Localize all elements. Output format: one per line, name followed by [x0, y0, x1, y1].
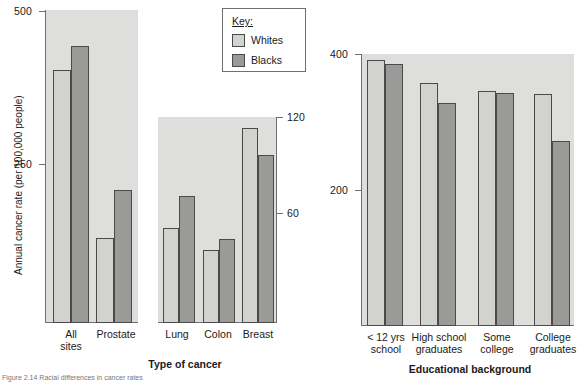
- y-axis-middle: [276, 117, 277, 323]
- y-tick-250-left: [39, 164, 45, 165]
- bar-blacks-high-school-graduates: [438, 103, 456, 326]
- category-label-lung: Lung: [155, 328, 199, 340]
- category-label-all-sites: All sites: [46, 328, 96, 352]
- bar-whites-college-graduates: [534, 94, 552, 326]
- bar-blacks-prostate: [114, 190, 132, 323]
- y-tick-label-400-right: 400: [330, 48, 348, 60]
- category-label-breast: Breast: [234, 328, 282, 340]
- bar-whites-high-school-graduates: [420, 83, 438, 326]
- figure-caption: Figure 2.14 Racial differences in cancer…: [2, 374, 242, 384]
- y-tick-200-right: [355, 190, 361, 191]
- category-label-college-graduates: College graduates: [522, 331, 582, 355]
- y-tick-label-200-right: 200: [330, 184, 348, 196]
- bar-blacks-breast: [258, 155, 274, 323]
- y-tick-label-60-middle: 60: [287, 207, 299, 219]
- legend-label-whites: Whites: [251, 34, 283, 47]
- y-axis-title-left: Annual cancer rate (per 100,000 people): [13, 95, 24, 275]
- whites-swatch-icon: [232, 34, 245, 47]
- legend-label-blacks: Blacks: [251, 54, 282, 67]
- bar-whites-breast: [242, 128, 258, 323]
- y-axis-left: [45, 10, 46, 323]
- bar-whites-some-college: [478, 91, 496, 326]
- y-tick-400-right: [355, 54, 361, 55]
- y-tick-500-left: [39, 11, 45, 12]
- y-axis-right: [361, 54, 362, 326]
- bar-blacks-college-graduates: [552, 141, 570, 326]
- y-tick-60-middle: [277, 213, 283, 214]
- x-axis-title-type-of-cancer: Type of cancer: [125, 358, 245, 370]
- legend-title: Key:: [232, 15, 253, 27]
- bar-blacks-all-sites: [71, 46, 89, 323]
- category-label-some-college: Some college: [468, 331, 526, 355]
- bar-whites-prostate: [96, 238, 114, 323]
- y-tick-label-120-middle: 120: [287, 111, 305, 123]
- y-tick-120-middle: [277, 117, 283, 118]
- x-axis-title-educational-background: Educational background: [395, 363, 545, 375]
- bar-whites-colon: [203, 250, 219, 323]
- figure-container: 500 250 All sites Prostate Annual cancer…: [0, 0, 582, 384]
- bar-whites-lung: [163, 228, 179, 323]
- bar-whites-all-sites: [53, 70, 71, 323]
- category-label-high-school-graduates: High school graduates: [402, 331, 476, 355]
- bar-blacks-colon: [219, 239, 235, 323]
- bar-whites-less-than-12-yrs-school: [367, 60, 385, 326]
- y-tick-label-500-left: 500: [14, 5, 32, 17]
- blacks-swatch-icon: [232, 54, 245, 67]
- bar-blacks-lung: [179, 196, 195, 323]
- legend-key: Key: Whites Blacks: [222, 8, 306, 72]
- category-label-prostate: Prostate: [90, 328, 142, 340]
- bar-blacks-less-than-12-yrs-school: [385, 64, 403, 326]
- bar-blacks-some-college: [496, 93, 514, 326]
